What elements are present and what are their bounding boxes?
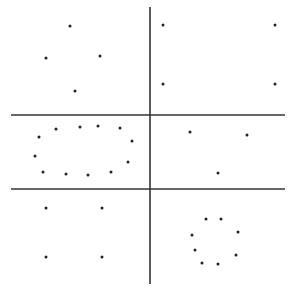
dot — [205, 218, 208, 221]
dot — [217, 263, 220, 266]
dot — [127, 161, 130, 164]
dot — [99, 55, 102, 58]
dot — [217, 172, 220, 175]
bottom-right-circle — [191, 218, 240, 266]
dot — [194, 249, 197, 252]
dot — [235, 254, 238, 257]
dot — [189, 131, 192, 134]
dot — [45, 207, 48, 210]
dot — [69, 25, 72, 28]
dot — [201, 262, 204, 265]
dot — [162, 83, 165, 86]
dot-groups — [34, 24, 277, 266]
dot — [119, 127, 122, 130]
dot — [246, 134, 249, 137]
dot-pattern-diagram — [0, 0, 296, 303]
divider-lines — [11, 7, 285, 284]
dot — [110, 171, 113, 174]
dot — [45, 57, 48, 60]
dot — [87, 174, 90, 177]
dot — [131, 140, 134, 143]
dot — [55, 128, 58, 131]
dot — [42, 171, 45, 174]
dot — [65, 173, 68, 176]
dot — [97, 125, 100, 128]
dot — [162, 24, 165, 27]
dot — [101, 207, 104, 210]
dot — [38, 136, 41, 139]
dot — [237, 231, 240, 234]
top-right-square — [162, 24, 277, 86]
dot — [220, 218, 223, 221]
dot — [191, 234, 194, 237]
top-left-diamond — [45, 25, 102, 93]
middle-left-ellipse — [34, 125, 134, 177]
dot — [79, 126, 82, 129]
dot — [274, 24, 277, 27]
dot — [101, 256, 104, 259]
dot — [45, 256, 48, 259]
middle-right-triangle — [189, 131, 249, 175]
dot — [34, 155, 37, 158]
bottom-left-square — [45, 207, 104, 259]
dot — [74, 90, 77, 93]
dot — [274, 83, 277, 86]
